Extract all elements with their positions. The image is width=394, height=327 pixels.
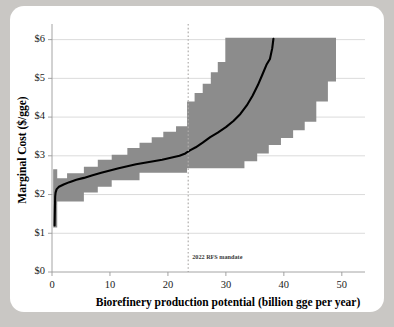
y-axis-title: Marginal Cost ($/gge) [16, 96, 29, 203]
y-tick-label-4: $4 [35, 110, 46, 121]
cost-range-band [53, 38, 343, 228]
x-tick-label-0: 0 [49, 279, 54, 290]
x-tick-label-2: 20 [163, 279, 174, 290]
x-axis-tick-labels: 01020304050 [49, 272, 347, 290]
y-tick-label-1: $1 [35, 227, 46, 238]
y-tick-label-6: $6 [35, 33, 46, 44]
x-tick-label-4: 40 [279, 279, 290, 290]
y-tick-label-2: $2 [35, 188, 46, 199]
marginal-cost-supply-curve-chart: $0$1$2$3$4$5$6 01020304050 2022 RFS mand… [10, 6, 384, 312]
figure-card: $0$1$2$3$4$5$6 01020304050 2022 RFS mand… [10, 6, 384, 312]
y-tick-label-3: $3 [35, 149, 46, 160]
y-tick-label-0: $0 [35, 265, 46, 276]
x-tick-label-3: 30 [221, 279, 232, 290]
chart-container: $0$1$2$3$4$5$6 01020304050 2022 RFS mand… [10, 6, 384, 312]
cost-range-band-shape [53, 38, 343, 228]
mandate-annotation-label: 2022 RFS mandate [192, 253, 242, 260]
x-tick-label-5: 50 [337, 279, 348, 290]
x-axis-title: Biorefinery production potential (billio… [96, 296, 361, 309]
annotation-labels: 2022 RFS mandate [192, 253, 242, 260]
y-axis-tick-labels: $0$1$2$3$4$5$6 [35, 33, 53, 276]
y-tick-label-5: $5 [35, 72, 46, 83]
x-tick-label-1: 10 [105, 279, 116, 290]
